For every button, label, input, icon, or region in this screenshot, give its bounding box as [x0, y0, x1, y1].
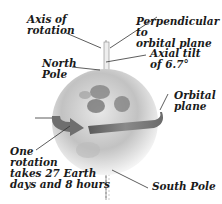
one-rotation-label: One rotation takes 27 Earth days and 8 h… [10, 146, 110, 190]
north-pole-label: North Pole [42, 58, 77, 80]
rotation-axis [104, 42, 109, 72]
axial-tilt-label: Axial tilt of 6.7° [150, 48, 201, 70]
perpendicular-label: Perpendicular to orbital plane [136, 16, 222, 49]
orbital-plane-label: Orbital plane [174, 90, 216, 112]
south-pole-label: South Pole [152, 181, 216, 192]
sun-rotation-diagram: Axis of rotation North Pole Perpendicula… [0, 0, 222, 204]
axis-of-rotation-label: Axis of rotation [27, 14, 75, 36]
